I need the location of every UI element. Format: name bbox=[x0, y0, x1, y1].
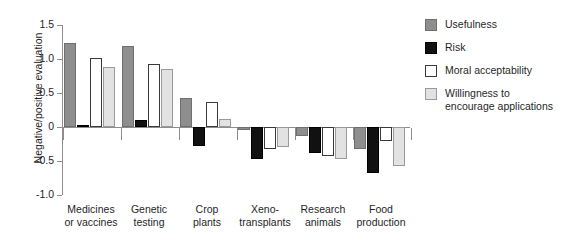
bar bbox=[238, 127, 250, 130]
bar bbox=[180, 98, 192, 127]
bar bbox=[122, 46, 134, 127]
group-separator-tick bbox=[353, 128, 354, 140]
bar bbox=[64, 43, 76, 127]
legend-swatch-icon bbox=[425, 19, 437, 31]
bar-chart-figure: 1.51.00.50-0.5-1.0 Negative/positive eva… bbox=[0, 0, 581, 247]
chart-legend: UsefulnessRiskMoral acceptabilityWilling… bbox=[425, 18, 575, 122]
bar bbox=[354, 127, 366, 149]
group-separator-tick bbox=[237, 128, 238, 140]
bar bbox=[219, 119, 231, 127]
y-axis-title: Negative/positive evaluation bbox=[32, 3, 44, 193]
bar bbox=[264, 127, 276, 149]
bar bbox=[103, 67, 115, 127]
bar bbox=[296, 127, 308, 136]
legend-item: Usefulness bbox=[425, 18, 575, 31]
bar bbox=[148, 64, 160, 127]
group-separator-tick bbox=[63, 128, 64, 140]
legend-item: Willingness to encourage applications bbox=[425, 87, 575, 112]
group-separator-tick bbox=[121, 128, 122, 140]
y-tick-mark bbox=[57, 195, 62, 196]
legend-label: Risk bbox=[445, 41, 575, 54]
bar bbox=[367, 127, 379, 173]
group-separator-tick bbox=[179, 128, 180, 140]
legend-label: Usefulness bbox=[445, 18, 575, 31]
legend-label: Moral acceptability bbox=[445, 64, 575, 77]
group-separator-tick bbox=[295, 128, 296, 140]
bar bbox=[393, 127, 405, 166]
legend-swatch-icon bbox=[425, 42, 437, 54]
legend-swatch-icon bbox=[425, 65, 437, 77]
bar bbox=[161, 69, 173, 127]
legend-item: Moral acceptability bbox=[425, 64, 575, 77]
bar bbox=[322, 127, 334, 156]
bar bbox=[90, 58, 102, 127]
legend-item: Risk bbox=[425, 41, 575, 54]
bar bbox=[380, 127, 392, 141]
group-separator-tick bbox=[411, 128, 412, 140]
bar bbox=[206, 102, 218, 127]
bar bbox=[193, 127, 205, 146]
legend-label: Willingness to encourage applications bbox=[445, 87, 575, 112]
clipped-title-remnant bbox=[18, 0, 418, 8]
bar bbox=[251, 127, 263, 159]
category-label: Food production bbox=[344, 203, 418, 228]
bar bbox=[77, 125, 89, 127]
legend-swatch-icon bbox=[425, 88, 437, 100]
bar bbox=[309, 127, 321, 153]
bar bbox=[277, 127, 289, 147]
plot-area bbox=[62, 25, 410, 195]
bar bbox=[335, 127, 347, 159]
bar bbox=[135, 120, 147, 127]
